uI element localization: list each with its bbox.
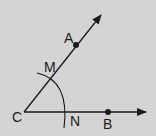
label-c: C (12, 109, 22, 125)
label-m: M (44, 59, 56, 75)
point-b (105, 109, 111, 115)
label-b: B (103, 116, 112, 132)
point-a (73, 42, 79, 48)
compass-arc (37, 73, 65, 128)
label-a: A (64, 30, 74, 46)
label-n: N (70, 113, 80, 129)
angle-construction-diagram: A M C N B (0, 0, 156, 136)
